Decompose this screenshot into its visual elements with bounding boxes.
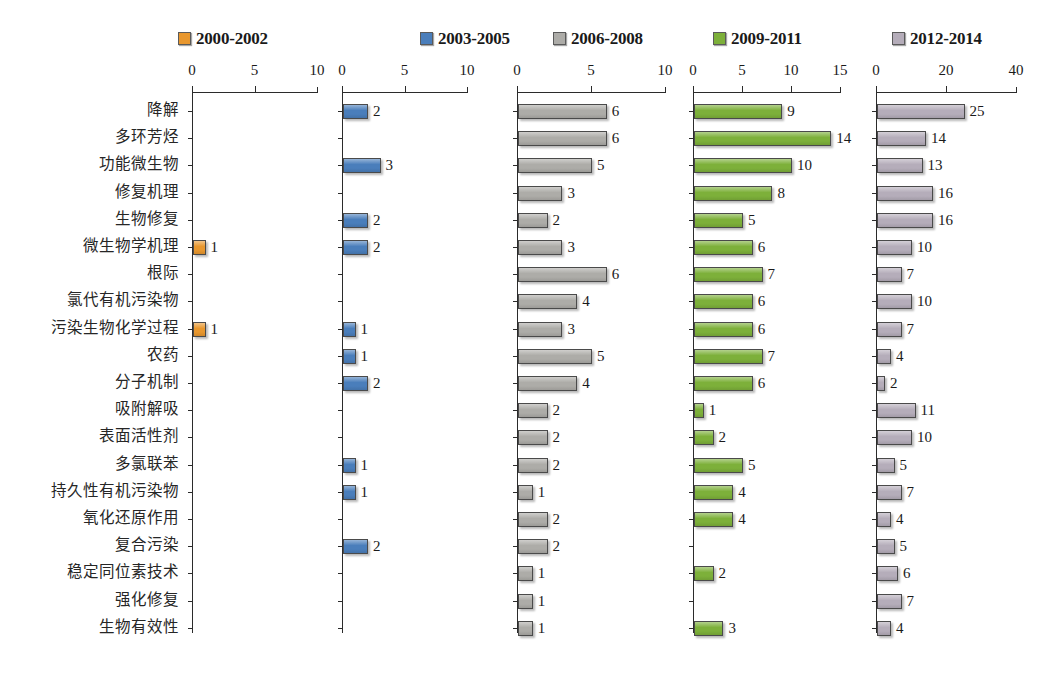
category-label: 吸附解吸 — [115, 402, 179, 418]
bar-value-label: 10 — [917, 430, 932, 445]
bar-value-label: 1 — [211, 240, 219, 255]
bar-value-label: 2 — [373, 376, 381, 391]
category-label: 氧化还原作用 — [83, 511, 179, 527]
bar-group: 10 — [877, 424, 932, 451]
category-label: 稳定同位素技术 — [67, 565, 179, 581]
category-tick — [338, 301, 343, 302]
bar-group: 16 — [877, 207, 953, 234]
bar-value-label: 16 — [938, 213, 953, 228]
bar-group: 1 — [694, 397, 716, 424]
bar — [694, 322, 753, 337]
axis-tick-label: 10 — [658, 62, 673, 79]
bar — [518, 594, 533, 609]
bar-group: 13 — [877, 152, 943, 179]
bar-group: 1 — [518, 615, 545, 642]
bar-group: 2 — [518, 452, 560, 479]
bar-group: 1 — [518, 588, 545, 615]
category-label: 表面活性剂 — [99, 429, 179, 445]
bar-value-label: 6 — [758, 294, 766, 309]
bar — [694, 621, 723, 636]
category-label: 复合污染 — [115, 538, 179, 554]
bar-group: 9 — [694, 98, 795, 125]
bar — [343, 458, 356, 473]
axis-tick-label: 40 — [1009, 62, 1024, 79]
bar-value-label: 4 — [896, 621, 904, 636]
bar — [694, 294, 753, 309]
bar-value-label: 3 — [728, 621, 736, 636]
bar — [694, 566, 714, 581]
bar-group: 3 — [518, 316, 575, 343]
bar-value-label: 10 — [797, 158, 812, 173]
axis-tick-label: 0 — [689, 62, 697, 79]
bar-value-label: 3 — [567, 240, 575, 255]
bar — [518, 213, 548, 228]
axis-tick-label: 10 — [310, 62, 325, 79]
bar — [518, 512, 548, 527]
category-tick — [338, 601, 343, 602]
bar-group: 4 — [877, 506, 904, 533]
category-tick — [188, 220, 193, 221]
bar-group: 5 — [694, 452, 756, 479]
category-tick — [188, 274, 193, 275]
bar — [193, 322, 206, 337]
bar — [877, 104, 965, 119]
legend-item-2012-2014: 2012-2014 — [892, 30, 982, 47]
bar — [518, 267, 607, 282]
bar — [518, 485, 533, 500]
category-label: 降解 — [147, 103, 179, 119]
bar-group: 7 — [877, 316, 914, 343]
category-tick — [188, 138, 193, 139]
category-tick — [188, 410, 193, 411]
bar — [877, 349, 891, 364]
bar — [343, 104, 368, 119]
bar — [877, 294, 912, 309]
bar-group: 1 — [193, 316, 218, 343]
bar-value-label: 6 — [612, 104, 620, 119]
bar-value-label: 2 — [373, 213, 381, 228]
bar — [694, 104, 782, 119]
bar — [877, 403, 916, 418]
bar-group: 2 — [518, 397, 560, 424]
bar — [877, 621, 891, 636]
bar-group: 2 — [343, 370, 381, 397]
bar-value-label: 1 — [538, 566, 546, 581]
bar — [518, 322, 562, 337]
category-tick — [338, 274, 343, 275]
bar — [694, 430, 714, 445]
bar-group: 10 — [694, 152, 812, 179]
bar — [343, 158, 381, 173]
bar — [877, 376, 885, 391]
category-tick — [188, 356, 193, 357]
bar — [343, 539, 368, 554]
value-axis: 02040 — [876, 62, 1063, 96]
bar-group: 7 — [694, 343, 775, 370]
bar-value-label: 5 — [748, 213, 756, 228]
bar-value-label: 2 — [373, 539, 381, 554]
bar — [343, 240, 368, 255]
bar-group: 1 — [518, 479, 545, 506]
bar-value-label: 1 — [709, 403, 717, 418]
bar-group: 7 — [877, 261, 914, 288]
bar-value-label: 2 — [553, 430, 561, 445]
bar-group: 2 — [343, 234, 381, 261]
bar — [694, 349, 763, 364]
bar — [694, 485, 733, 500]
bar — [518, 458, 548, 473]
bar-group: 4 — [518, 288, 590, 315]
axis-tick-label: 0 — [872, 62, 880, 79]
bar-group: 14 — [877, 125, 946, 152]
bar — [877, 131, 926, 146]
bar-value-label: 6 — [758, 240, 766, 255]
bar — [518, 621, 533, 636]
legend-item-2000-2002: 2000-2002 — [178, 30, 268, 47]
bar-group: 2 — [518, 424, 560, 451]
bar-value-label: 2 — [553, 403, 561, 418]
bar — [694, 131, 831, 146]
bar — [694, 512, 733, 527]
bar — [877, 594, 902, 609]
bar-value-label: 4 — [896, 512, 904, 527]
bar — [343, 213, 368, 228]
axis-tick — [946, 86, 947, 93]
bar-group: 2 — [518, 533, 560, 560]
bar — [694, 240, 753, 255]
